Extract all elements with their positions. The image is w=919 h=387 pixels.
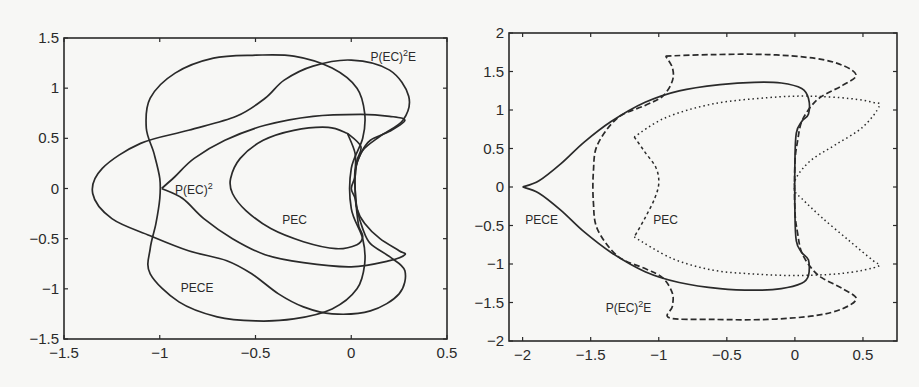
x-tick-label: 0 bbox=[791, 346, 799, 363]
left-curves bbox=[92, 55, 409, 321]
right-ticks: −2−1.5−1−0.500.521.510.50−0.5−1−1.5−2 bbox=[474, 24, 897, 363]
curve-p-ec-2e bbox=[593, 54, 856, 320]
x-tick-label: −0.5 bbox=[712, 346, 742, 363]
right-axes-frame bbox=[509, 33, 897, 341]
left-axes-frame bbox=[64, 38, 447, 339]
x-tick-label: −1 bbox=[650, 346, 667, 363]
y-tick-label: 1 bbox=[496, 101, 504, 118]
curve-label-pec: PEC bbox=[653, 213, 678, 227]
x-tick-label: −0.5 bbox=[241, 344, 271, 361]
y-tick-label: 1.5 bbox=[483, 63, 504, 80]
curve-pec bbox=[230, 127, 363, 249]
y-tick-label: 0 bbox=[51, 180, 59, 197]
y-tick-label: 1.5 bbox=[38, 29, 59, 46]
y-tick-label: 0.5 bbox=[483, 140, 504, 157]
x-tick-label: −1.5 bbox=[576, 346, 606, 363]
y-tick-label: −1 bbox=[42, 280, 59, 297]
y-tick-label: −0.5 bbox=[29, 230, 59, 247]
y-tick-label: 1 bbox=[51, 79, 59, 96]
curve-label-p-ec-2e: P(EC)2E bbox=[606, 299, 652, 315]
y-tick-label: −0.5 bbox=[474, 217, 504, 234]
y-tick-label: −1.5 bbox=[29, 330, 59, 347]
y-tick-label: −1 bbox=[487, 255, 504, 272]
figure: −1.5−1−0.500.51.510.50−0.5−1−1.5 P(EC)2E… bbox=[0, 0, 919, 387]
curve-pece bbox=[523, 82, 810, 290]
x-tick-label: −1 bbox=[151, 344, 168, 361]
left-chart: −1.5−1−0.500.51.510.50−0.5−1−1.5 P(EC)2E… bbox=[29, 29, 457, 361]
y-tick-label: 0.5 bbox=[38, 129, 59, 146]
y-tick-label: −2 bbox=[487, 332, 504, 349]
y-tick-label: 0 bbox=[496, 178, 504, 195]
curve-label-p-ec-2e: P(EC)2E bbox=[370, 48, 416, 64]
curve-label-pece: PECE bbox=[181, 281, 214, 295]
x-tick-label: 0 bbox=[347, 344, 355, 361]
left-annotations: P(EC)2EP(EC)2PECPECE bbox=[175, 48, 416, 295]
x-tick-label: 0.5 bbox=[853, 346, 874, 363]
right-annotations: PECEPECP(EC)2E bbox=[525, 213, 678, 315]
y-tick-label: −1.5 bbox=[474, 294, 504, 311]
curve-label-p-ec-2: P(EC)2 bbox=[175, 181, 213, 197]
x-tick-label: −2 bbox=[514, 346, 531, 363]
right-curves bbox=[523, 54, 880, 320]
curve-label-pece: PECE bbox=[525, 213, 558, 227]
right-chart: −2−1.5−1−0.500.521.510.50−0.5−1−1.5−2 PE… bbox=[474, 24, 897, 363]
y-tick-label: 2 bbox=[496, 24, 504, 41]
curve-label-pec: PEC bbox=[282, 213, 307, 227]
x-tick-label: 0.5 bbox=[437, 344, 458, 361]
curve-pec bbox=[634, 96, 879, 275]
